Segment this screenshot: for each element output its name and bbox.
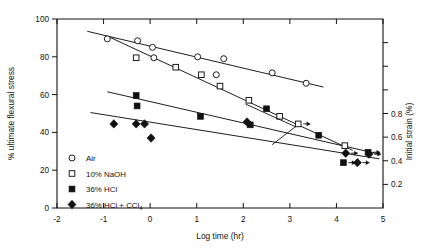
- data-point: [316, 132, 322, 138]
- x-tick-label: 3: [288, 215, 293, 224]
- data-point: [173, 64, 179, 70]
- x-tick-label: 2: [241, 215, 246, 224]
- y-tick-label: 0: [44, 204, 49, 213]
- y2-tick-label: 0.2: [391, 180, 403, 189]
- data-point: [132, 120, 140, 128]
- x-tick-label: 0: [148, 215, 153, 224]
- data-point: [217, 83, 223, 89]
- data-point: [199, 72, 205, 78]
- runout-arrowhead: [307, 122, 311, 127]
- data-point: [341, 160, 347, 166]
- runout-arrowhead: [366, 160, 370, 165]
- data-point: [149, 44, 155, 50]
- y-tick-label: 60: [40, 91, 50, 100]
- data-point: [110, 120, 118, 128]
- data-point: [213, 72, 219, 78]
- data-point: [133, 93, 139, 99]
- data-point: [198, 113, 204, 119]
- y-tick-label: 40: [40, 128, 50, 137]
- data-point: [342, 149, 350, 157]
- x-tick-label: -2: [53, 215, 61, 224]
- x-tick-label: 1: [194, 215, 199, 224]
- x-tick-label: 4: [334, 215, 339, 224]
- y2-tick-label: 0.8: [391, 110, 403, 119]
- data-point: [104, 36, 110, 42]
- legend-marker: [69, 155, 75, 161]
- data-point: [269, 70, 275, 76]
- data-point: [342, 143, 348, 149]
- trend-line: [87, 31, 323, 87]
- data-point: [151, 55, 157, 61]
- chart-canvas: -2-1012345Log time (hr)020406080100% ult…: [0, 0, 425, 249]
- data-point: [133, 55, 139, 61]
- legend-label: 36% HCl: [86, 185, 117, 194]
- x-tick-label: 5: [381, 215, 386, 224]
- y-tick-label: 100: [35, 15, 49, 24]
- data-point: [134, 103, 140, 109]
- data-point: [353, 158, 361, 166]
- data-point: [221, 56, 227, 62]
- y-axis-title: % ultimate flexural stress: [6, 67, 16, 160]
- data-point: [303, 80, 309, 86]
- y-tick-label: 80: [40, 53, 50, 62]
- data-point: [135, 38, 141, 44]
- y-tick-label: 20: [40, 166, 50, 175]
- y2-tick-label: 0.4: [391, 157, 403, 166]
- legend-label: 10% NaOH: [86, 170, 126, 179]
- y2-axis-title: Initial strain (%): [404, 102, 414, 160]
- legend-marker: [69, 186, 75, 192]
- y2-tick-label: 0.6: [391, 133, 403, 142]
- x-axis-title: Log time (hr): [196, 231, 244, 241]
- data-point: [195, 54, 201, 60]
- legend-marker: [68, 200, 76, 208]
- annotation-leader: [272, 127, 295, 145]
- plot-frame: [57, 19, 383, 208]
- legend-label: 36% HCl + CCl4: [86, 201, 143, 211]
- data-point: [147, 134, 155, 142]
- x-tick-label: -1: [100, 215, 108, 224]
- legend-label: Air: [86, 154, 96, 163]
- figure-scatter-plot: -2-1012345Log time (hr)020406080100% ult…: [0, 0, 425, 249]
- data-point: [295, 121, 301, 127]
- trend-line: [91, 113, 380, 159]
- data-point: [264, 106, 270, 112]
- legend-marker: [69, 171, 75, 177]
- data-point: [246, 97, 252, 103]
